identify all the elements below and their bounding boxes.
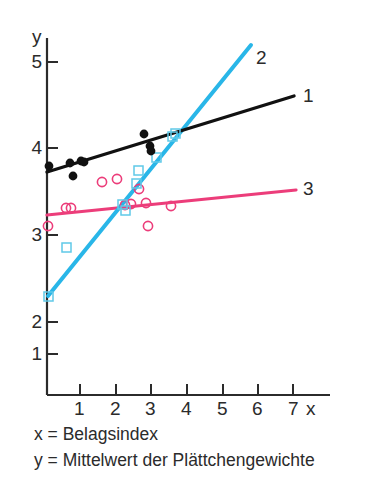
data-point: [112, 174, 121, 183]
x-tick-label-2: 2: [110, 399, 121, 418]
data-point: [66, 159, 75, 168]
caption-line-x: x = Belagsindex: [34, 421, 364, 447]
data-point: [147, 147, 156, 156]
data-point: [45, 162, 54, 171]
data-point: [97, 177, 106, 186]
data-point: [69, 172, 78, 181]
data-point: [80, 158, 89, 167]
data-point: [62, 243, 71, 252]
caption-line-y: y = Mittelwert der Plättchengewichte: [34, 447, 364, 473]
regression-line-2: [48, 45, 251, 296]
x-tick-label-4: 4: [181, 399, 192, 418]
y-tick-label-1: 1: [24, 344, 42, 363]
series-label-3: 3: [303, 178, 314, 200]
series-label-2: 2: [256, 47, 267, 69]
x-tick-label-1: 1: [74, 399, 85, 418]
axes: [47, 38, 330, 395]
series-label-1: 1: [303, 85, 314, 107]
x-axis-title: x: [306, 399, 316, 418]
data-point: [143, 221, 152, 230]
y-tick-label-5: 5: [24, 52, 42, 71]
data-point: [134, 166, 143, 175]
plot-area: [0, 0, 368, 493]
x-tick-label-5: 5: [217, 399, 228, 418]
y-axis-title: y: [32, 27, 42, 46]
caption-block: x = Belagsindex y = Mittelwert der Plätt…: [34, 421, 364, 473]
x-tick-label-7: 7: [288, 399, 299, 418]
y-tick-label-4: 4: [24, 138, 42, 157]
data-point: [140, 130, 149, 139]
x-tick-label-6: 6: [252, 399, 263, 418]
y-tick-label-2: 2: [24, 312, 42, 331]
x-tick-label-3: 3: [145, 399, 156, 418]
chart-figure: y x 5 4 3 2 1 1 2 3 4 5 6 7 2 1 3 x = Be…: [0, 0, 368, 493]
y-tick-label-3: 3: [24, 225, 42, 244]
